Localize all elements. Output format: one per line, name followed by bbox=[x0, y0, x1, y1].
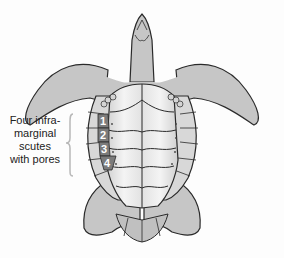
callout-line-1: Four infra- bbox=[2, 114, 68, 127]
callout-line-2: marginal bbox=[2, 127, 68, 140]
callout-line-4: with pores bbox=[2, 153, 68, 166]
turtle-diagram: 1 2 3 4 Four infra- marginal scutes with… bbox=[0, 0, 284, 258]
callout-label: Four infra- marginal scutes with pores bbox=[2, 114, 68, 166]
head bbox=[130, 14, 154, 82]
scute-number-2: 2 bbox=[100, 129, 106, 141]
scute-number-1: 1 bbox=[100, 115, 106, 127]
scute-number-4: 4 bbox=[104, 157, 111, 169]
scute-number-3: 3 bbox=[101, 143, 107, 155]
callout-line-3: scutes bbox=[2, 140, 68, 153]
